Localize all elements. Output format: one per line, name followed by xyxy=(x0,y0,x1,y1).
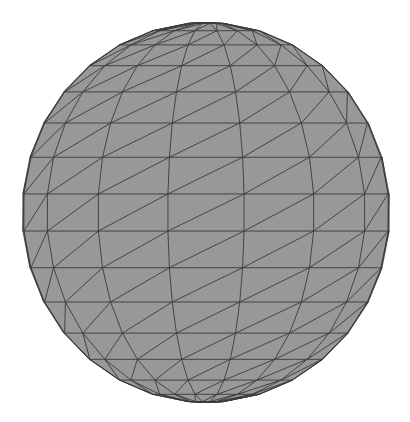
sphere-mesh xyxy=(23,23,389,403)
diagonal-edge xyxy=(217,23,218,30)
wireframe-sphere xyxy=(0,0,410,422)
3d-viewport[interactable] xyxy=(0,0,410,422)
